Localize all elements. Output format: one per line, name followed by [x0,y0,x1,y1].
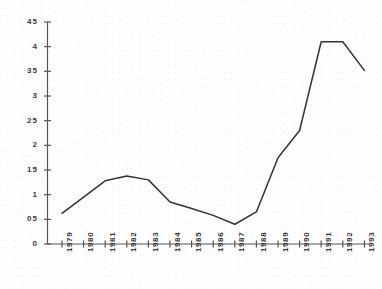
x-axis-tick-label: 1987 [238,232,246,252]
y-axis-tick-label: 35 [0,67,38,75]
x-axis-tick-label: 1991 [325,232,333,252]
x-axis-tick-label: 1982 [130,232,138,252]
x-axis-tick-label: 1981 [109,232,117,252]
x-axis-tick-label: 1980 [87,232,95,252]
y-axis-tick-label: 15 [0,166,38,174]
x-axis-tick-label: 1988 [260,232,268,252]
x-axis-tick-label: 1985 [195,232,203,252]
y-axis-tick-label: 3 [0,92,38,100]
x-axis-tick-label: 1992 [346,232,354,252]
x-axis-tick-label: 1983 [152,232,160,252]
y-axis-tick-label: 4 [0,43,38,51]
x-axis-tick-label: 1984 [174,232,182,252]
line-chart: 005115225335445 197919801981198219831984… [0,0,382,289]
x-axis-tick-label: 1990 [303,232,311,252]
y-axis [44,22,51,244]
y-axis-tick-label: 0 [0,240,38,248]
x-axis-tick-label: 1993 [368,232,376,252]
x-axis-tick-label: 1979 [66,232,74,252]
x-axis [48,241,371,248]
x-axis-tick-label: 1986 [217,232,225,252]
y-axis-tick-label: 45 [0,18,38,26]
y-axis-tick-label: 2 [0,141,38,149]
x-axis-tick-label: 1989 [282,232,290,252]
y-axis-tick-label: 25 [0,117,38,125]
data-series-line [62,42,364,225]
y-axis-tick-label: 1 [0,191,38,199]
y-axis-tick-label: 05 [0,215,38,223]
